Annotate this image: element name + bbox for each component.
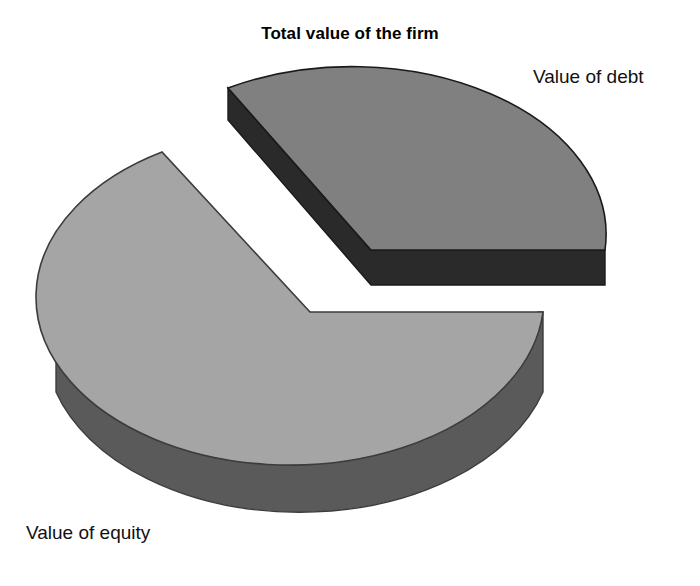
pie-slice-debt[interactable] (228, 67, 606, 285)
slice-label-debt: Value of debt (533, 66, 644, 88)
pie-chart-figure: Total value of the firm Value of debt Va… (0, 0, 700, 586)
slice-label-equity: Value of equity (26, 522, 150, 544)
chart-title: Total value of the firm (0, 24, 700, 44)
